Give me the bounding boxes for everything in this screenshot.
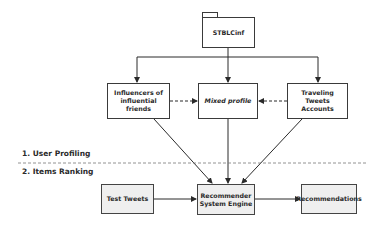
edge-traveling-to-engine [242,119,302,183]
phase-label-items-ranking: 2. Items Ranking [22,167,93,176]
node-mixed-profile: Mixed profile [198,83,258,119]
node-influencers-label: Influencers of influential friends [114,89,163,113]
node-recommender-engine-label: Recommender System Engine [200,192,253,208]
node-traveling-accounts-label: Traveling Tweets Accounts [301,89,334,113]
node-source-label: STBLCinf [213,29,245,37]
node-test-tweets-label: Test Tweets [107,195,148,203]
edge-influencers-to-engine [154,119,212,183]
node-source-folder: STBLCinf [202,17,255,48]
node-influencers: Influencers of influential friends [107,83,170,119]
phase-label-user-profiling: 1. User Profiling [22,149,90,158]
node-test-tweets: Test Tweets [101,184,154,214]
node-recommendations: Recommendations [301,184,357,214]
node-mixed-profile-label: Mixed profile [205,97,252,105]
node-recommender-engine: Recommender System Engine [197,184,255,215]
node-recommendations-label: Recommendations [296,195,362,203]
node-traveling-accounts: Traveling Tweets Accounts [287,83,348,119]
